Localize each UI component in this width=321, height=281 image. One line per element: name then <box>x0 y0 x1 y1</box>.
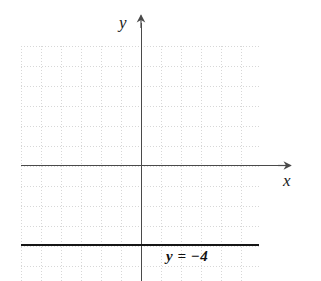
y-axis-arrow-icon <box>134 14 148 28</box>
y-axis-label: y <box>119 14 127 31</box>
function-line-y-equals-minus-4 <box>21 244 259 246</box>
x-axis-label: x <box>283 172 291 189</box>
y-axis-line <box>141 23 142 281</box>
graph-figure: x y y = −4 <box>0 0 321 281</box>
function-equation-label: y = −4 <box>166 248 208 265</box>
x-axis-line <box>21 165 285 166</box>
